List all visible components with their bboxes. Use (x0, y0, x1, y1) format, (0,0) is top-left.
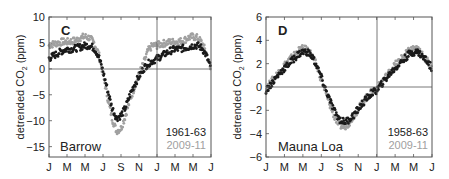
data-point (97, 49, 100, 52)
data-point (110, 112, 113, 115)
data-point (385, 79, 388, 82)
data-point (171, 38, 174, 41)
data-point (51, 46, 54, 49)
panel-label: C (61, 23, 71, 38)
data-point (75, 50, 78, 53)
data-point (332, 104, 335, 107)
data-point (149, 49, 152, 52)
site-label: Barrow (60, 139, 102, 154)
data-point (103, 73, 106, 76)
data-point (184, 41, 187, 44)
data-point (182, 44, 185, 47)
data-point (104, 78, 107, 81)
data-point (195, 47, 198, 50)
data-point (125, 106, 128, 109)
data-point (111, 119, 114, 122)
data-point (98, 54, 101, 57)
data-point (380, 80, 383, 83)
data-point (132, 89, 135, 92)
data-point (192, 33, 195, 36)
data-point (122, 122, 125, 125)
data-point (109, 106, 112, 109)
data-point (191, 43, 194, 46)
x-tick-label: J (46, 161, 52, 173)
data-point (188, 38, 191, 41)
legend-dark-series: 1958-63 (388, 126, 428, 138)
x-tick-label: J (319, 161, 325, 173)
x-tick-label: N (354, 161, 362, 173)
data-point (162, 39, 165, 42)
legend-light-series: 2009-11 (166, 139, 206, 151)
x-tick-label: N (135, 161, 143, 173)
data-point (114, 124, 117, 127)
data-point (81, 33, 84, 36)
x-tick-label: M (188, 161, 197, 173)
data-point (98, 51, 101, 54)
data-point (292, 61, 295, 64)
data-point (109, 98, 112, 101)
y-tick-label: 2 (256, 58, 262, 70)
x-tick-label: M (391, 161, 400, 173)
data-point (273, 81, 276, 84)
data-point (317, 66, 320, 69)
x-tick-label: J (154, 161, 160, 173)
site-label: Mauna Loa (278, 139, 344, 154)
data-point (57, 55, 60, 58)
data-point (125, 114, 128, 117)
y-tick-label: 0 (39, 63, 45, 75)
data-point (424, 55, 427, 58)
data-point (107, 91, 110, 94)
data-point (284, 69, 287, 72)
y-tick-label: −10 (26, 115, 45, 127)
data-point (342, 117, 345, 120)
data-point (398, 65, 401, 68)
data-point (144, 56, 147, 59)
data-point (176, 49, 179, 52)
data-point (84, 33, 87, 36)
data-point (129, 96, 132, 99)
data-point (302, 53, 305, 56)
data-point (196, 33, 199, 36)
data-point (58, 52, 61, 55)
x-tick-label: S (336, 161, 343, 173)
data-point (339, 116, 342, 119)
y-tick-label: 6 (256, 11, 262, 23)
data-point (179, 37, 182, 40)
data-point (54, 51, 57, 54)
data-point (108, 95, 111, 98)
x-tick-label: M (280, 161, 289, 173)
y-tick-label: −2 (249, 104, 262, 116)
data-point (153, 62, 156, 65)
data-point (200, 39, 203, 42)
y-axis-ticks: 1050−5−10−15 (26, 11, 52, 153)
data-point (429, 61, 432, 64)
x-tick-label: M (80, 161, 89, 173)
panel-d-mauna-loa: 6420−2−4−6 JMMJSNJMMJ D Mauna Loa 1958-6… (231, 11, 435, 173)
y-axis-label: detrended CO2 (ppm) (14, 35, 28, 140)
data-point (169, 38, 172, 41)
x-tick-label: M (409, 161, 418, 173)
data-point (419, 50, 422, 53)
data-point (295, 59, 298, 62)
data-point (427, 63, 430, 66)
scatter-points-barrow (48, 32, 212, 135)
data-point (363, 104, 366, 107)
data-point (135, 83, 138, 86)
data-point (110, 103, 113, 106)
data-point (335, 111, 338, 114)
data-point (356, 111, 359, 114)
data-point (134, 85, 137, 88)
data-point (407, 55, 410, 58)
data-point (352, 117, 355, 120)
y-tick-label: −5 (32, 89, 45, 101)
panel-label: D (278, 23, 287, 38)
data-point (106, 83, 109, 86)
y-tick-label: −15 (26, 141, 45, 153)
data-point (128, 93, 131, 96)
data-point (200, 43, 203, 46)
y-tick-label: 4 (256, 34, 262, 46)
data-point (195, 36, 198, 39)
data-point (170, 53, 173, 56)
data-point (361, 100, 364, 103)
data-point (382, 83, 385, 86)
